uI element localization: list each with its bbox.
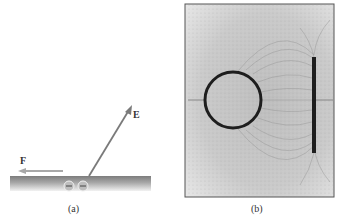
- force-vector-label: F: [20, 155, 26, 166]
- figure-canvas: [0, 0, 345, 218]
- caption-a: (a): [68, 203, 79, 214]
- negative-charge-icon: [64, 181, 74, 191]
- field-arrow: [89, 110, 129, 176]
- charged-rod: [312, 57, 316, 153]
- panel-a: [10, 105, 151, 191]
- force-arrowhead-icon: [18, 168, 26, 174]
- negative-charge-icon: [78, 181, 88, 191]
- field-vector-label: E: [133, 109, 140, 120]
- caption-b: (b): [251, 203, 263, 214]
- panel-b: [185, 4, 334, 197]
